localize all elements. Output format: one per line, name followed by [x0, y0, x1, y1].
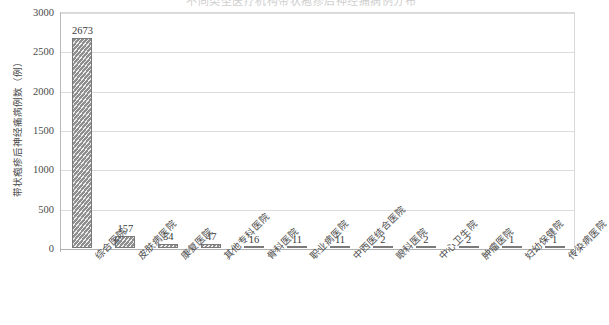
x-axis-category-label: 皮肤病医院	[134, 252, 144, 262]
bar-slot: 16	[233, 13, 276, 248]
y-axis-tick-labels: 050010001500200025003000	[16, 12, 58, 248]
bar-slot: 47	[190, 13, 233, 248]
bar-value-label: 2673	[72, 25, 93, 36]
x-axis-category-label: 中心卫生院	[435, 252, 445, 262]
bar-slot: 11	[319, 13, 362, 248]
chart-title: 不同类型医疗机构带状疱疹后神经痛病例分布	[0, 0, 602, 8]
bar-slot: 2	[404, 13, 447, 248]
chart-title-strip: 不同类型医疗机构带状疱疹后神经痛病例分布	[0, 0, 602, 9]
y-axis-tick-label: 2000	[33, 85, 54, 96]
y-axis-tick-label: 3000	[33, 7, 54, 18]
bar-slot: 157	[104, 13, 147, 248]
x-axis-category-label: 眼科医院	[392, 252, 402, 262]
x-axis-category-label: 中西医结合医院	[349, 252, 359, 262]
x-axis-category-labels: 综合医院皮肤病医院康复医院其他专科医院骨科医院职业病医院中西医结合医院眼科医院中…	[60, 252, 575, 325]
x-axis-category-label: 肿瘤医院	[478, 252, 488, 262]
bar-slot: 1	[490, 13, 533, 248]
y-axis-tick-label: 500	[38, 203, 54, 214]
plot-area: 2673157544716111122211	[60, 12, 575, 248]
bar[interactable]	[72, 38, 92, 248]
bar-slot: 2673	[61, 13, 104, 248]
x-axis-category-label: 其他专科医院	[220, 252, 230, 262]
bar-series: 2673157544716111122211	[61, 13, 574, 248]
bar-slot: 11	[276, 13, 319, 248]
bar-slot: 2	[447, 13, 490, 248]
x-axis-category-label: 妇幼保健院	[521, 252, 531, 262]
y-axis-tick-label: 1000	[33, 164, 54, 175]
bar-slot: 1	[533, 13, 576, 248]
x-axis-category-label: 职业病医院	[306, 252, 316, 262]
y-axis-tick-label: 0	[49, 243, 54, 254]
x-axis-category-label: 骨科医院	[263, 252, 273, 262]
y-axis-tick-label: 2500	[33, 46, 54, 57]
bar-slot: 54	[147, 13, 190, 248]
x-axis-category-label: 传染病医院	[564, 252, 574, 262]
x-axis-category-label: 康复医院	[177, 252, 187, 262]
y-axis-tick-label: 1500	[33, 125, 54, 136]
x-axis-category-label: 综合医院	[91, 252, 101, 262]
